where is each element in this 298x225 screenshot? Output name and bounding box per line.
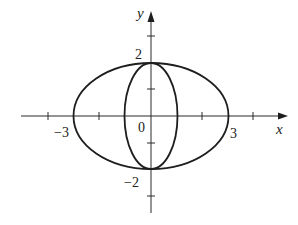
x-axis-arrow-icon xyxy=(278,113,288,120)
tick-label-x-pos: 3 xyxy=(230,126,237,141)
y-axis xyxy=(147,11,155,213)
tick-label-y-neg: −2 xyxy=(124,175,139,190)
origin-label: 0 xyxy=(138,120,145,135)
y-axis-arrow-icon xyxy=(148,11,155,22)
y-axis-label: y xyxy=(135,5,144,21)
tick-label-y-pos: 2 xyxy=(135,47,142,62)
x-axis-label: x xyxy=(275,121,283,137)
ellipses-diagram: y x 2 −2 −3 3 0 xyxy=(0,0,298,225)
x-axis xyxy=(21,112,288,120)
tick-label-x-neg: −3 xyxy=(54,125,69,140)
